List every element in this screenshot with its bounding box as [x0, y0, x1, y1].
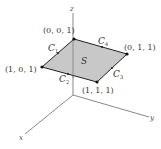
curve-label-c1-main: C [48, 43, 55, 53]
x-axis [25, 95, 73, 134]
vertex-label-111: (1, 1, 1) [82, 86, 114, 95]
diagram-canvas: z y x (0, 0, 1) (0, 1, 1) (1, 1, 1) (1, … [0, 0, 161, 149]
edge-mark-c4 [101, 46, 103, 48]
curve-label-c1-sub: 1 [55, 48, 58, 54]
z-axis-label: z [69, 5, 74, 13]
y-axis-label: y [149, 114, 155, 122]
curve-label-c3: C 3 [113, 69, 123, 80]
vertex-dot-001 [72, 37, 75, 40]
vertex-label-011: (0, 1, 1) [124, 43, 156, 52]
curve-label-c4-main: C [98, 36, 105, 46]
x-axis-label: x [19, 134, 23, 142]
vertex-dot-111 [95, 80, 98, 83]
surface-label: S [81, 56, 87, 66]
vertex-label-001: (0, 0, 1) [43, 26, 75, 35]
curve-label-c3-sub: 3 [120, 74, 123, 80]
curve-label-c1: C 1 [48, 43, 58, 54]
curve-label-c2-sub: 2 [66, 79, 69, 85]
curve-label-c4: C 4 [98, 36, 108, 47]
edge-mark-c2 [67, 73, 69, 75]
curve-label-c4-sub: 4 [105, 41, 108, 47]
curve-label-c2: C 2 [59, 74, 69, 85]
y-axis [73, 95, 149, 117]
vertex-dot-101 [40, 65, 43, 68]
vertex-dot-011 [125, 52, 128, 55]
vertex-label-101: (1, 0, 1) [5, 65, 37, 74]
curve-label-c2-main: C [59, 74, 66, 84]
diagram-svg: z y x (0, 0, 1) (0, 1, 1) (1, 1, 1) (1, … [0, 0, 161, 149]
curve-label-c3-main: C [113, 69, 120, 79]
